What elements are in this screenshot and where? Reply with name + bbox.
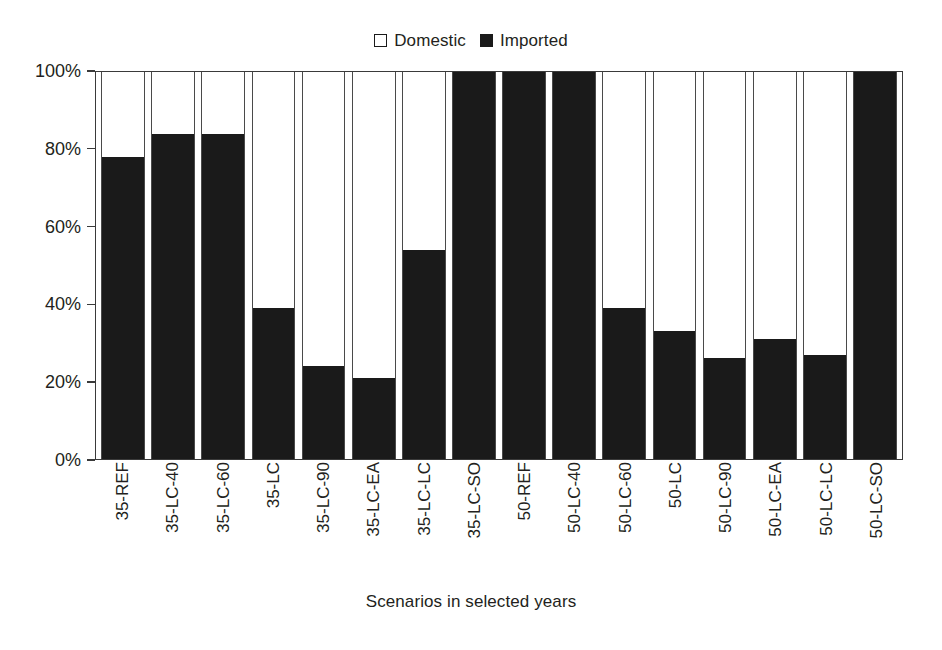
x-axis-label-cell: 50-LC-90: [703, 462, 747, 580]
bar-column: [252, 72, 296, 459]
x-axis-category-label: 35-LC-LC: [415, 462, 432, 536]
x-axis-title: Scenarios in selected years: [0, 592, 942, 612]
x-axis-category-label: 50-LC-EA: [767, 462, 784, 537]
y-axis-tick-mark: [87, 148, 95, 149]
y-axis-tick-mark: [87, 304, 95, 305]
bar-segment-imported: [353, 378, 395, 459]
y-axis-tick-label: 60%: [45, 218, 87, 236]
y-axis-tick: 60%: [45, 218, 95, 236]
bar-segment-domestic: [253, 72, 295, 308]
y-axis-tick: 40%: [45, 295, 95, 313]
legend-item-domestic: Domestic: [374, 32, 466, 49]
x-axis-label-cell: 35-LC: [251, 462, 295, 580]
x-axis-label-cell: 35-LC-90: [301, 462, 345, 580]
bar-segment-imported: [503, 72, 545, 459]
bar-segment-domestic: [102, 72, 144, 157]
bar-segment-imported: [804, 355, 846, 459]
bar-column: [402, 72, 446, 459]
x-axis-category-label: 35-REF: [114, 462, 131, 521]
x-axis-label-cell: 35-LC-60: [201, 462, 245, 580]
bar-column: [753, 72, 797, 459]
bar-segment-imported: [704, 358, 746, 459]
x-axis-label-cell: 50-LC-EA: [753, 462, 797, 580]
chart-legend: Domestic Imported: [0, 32, 942, 49]
bar-column: [452, 72, 496, 459]
bar-segment-domestic: [303, 72, 345, 366]
bar-segment-imported: [303, 366, 345, 459]
bar-column: [502, 72, 546, 459]
x-axis-label-cell: 50-LC-LC: [804, 462, 848, 580]
y-axis-tick-mark: [87, 226, 95, 227]
x-axis-label-cell: 35-LC-40: [150, 462, 194, 580]
y-axis-tick-mark: [87, 70, 95, 71]
y-axis-tick: 0%: [55, 451, 95, 469]
x-axis-category-label: 35-LC-60: [214, 462, 231, 533]
legend-item-imported: Imported: [480, 32, 568, 49]
y-axis: 0%20%40%60%80%100%: [0, 71, 95, 460]
x-axis-label-cell: 35-REF: [100, 462, 144, 580]
x-axis-label-cell: 35-LC-LC: [402, 462, 446, 580]
bar-segment-domestic: [403, 72, 445, 250]
x-axis-category-labels: 35-REF35-LC-4035-LC-6035-LC35-LC-9035-LC…: [95, 462, 903, 580]
bar-segment-imported: [654, 331, 696, 459]
bar-segment-domestic: [754, 72, 796, 339]
legend-swatch-domestic-icon: [374, 34, 387, 47]
bar-segment-domestic: [704, 72, 746, 358]
y-axis-tick-mark: [87, 459, 95, 460]
stacked-bar-chart: Domestic Imported 0%20%40%60%80%100% 35-…: [0, 0, 942, 650]
bar-segment-imported: [152, 134, 194, 459]
legend-label-domestic: Domestic: [394, 32, 466, 49]
y-axis-tick: 20%: [45, 373, 95, 391]
x-axis-label-cell: 50-LC-60: [603, 462, 647, 580]
bar-segment-imported: [553, 72, 595, 459]
bar-column: [552, 72, 596, 459]
x-axis-category-label: 35-LC: [264, 462, 281, 508]
y-axis-tick-label: 100%: [35, 62, 87, 80]
x-axis-category-label: 50-LC-60: [616, 462, 633, 533]
x-axis-category-label: 50-LC-SO: [867, 462, 884, 539]
bar-column: [352, 72, 396, 459]
x-axis-category-label: 50-REF: [516, 462, 533, 521]
bar-segment-domestic: [804, 72, 846, 355]
y-axis-tick-label: 20%: [45, 373, 87, 391]
bar-segment-domestic: [152, 72, 194, 134]
y-axis-tick-label: 80%: [45, 140, 87, 158]
bar-segment-imported: [403, 250, 445, 459]
y-axis-tick-label: 40%: [45, 295, 87, 313]
x-axis-label-cell: 35-LC-SO: [452, 462, 496, 580]
bar-column: [302, 72, 346, 459]
bar-segment-domestic: [202, 72, 244, 134]
bar-segment-domestic: [353, 72, 395, 378]
bar-column: [803, 72, 847, 459]
x-axis-category-label: 50-LC-LC: [817, 462, 834, 536]
bar-column: [101, 72, 145, 459]
bar-segment-imported: [102, 157, 144, 459]
bar-column: [602, 72, 646, 459]
legend-label-imported: Imported: [500, 32, 568, 49]
x-axis-category-label: 35-LC-90: [315, 462, 332, 533]
bar-segment-imported: [202, 134, 244, 459]
x-axis-label-cell: 50-LC-SO: [854, 462, 898, 580]
plot-area: [95, 71, 903, 460]
x-axis-category-label: 35-LC-SO: [465, 462, 482, 539]
bar-column: [653, 72, 697, 459]
x-axis-category-label: 35-LC-40: [164, 462, 181, 533]
x-axis-category-label: 50-LC-40: [566, 462, 583, 533]
y-axis-tick-mark: [87, 381, 95, 382]
bar-segment-imported: [603, 308, 645, 459]
bar-segment-imported: [754, 339, 796, 459]
bar-series-container: [96, 72, 902, 459]
x-axis-label-cell: 35-LC-EA: [351, 462, 395, 580]
bar-segment-imported: [453, 72, 495, 459]
bar-segment-domestic: [654, 72, 696, 331]
legend-swatch-imported-icon: [480, 34, 493, 47]
x-axis-label-cell: 50-LC-40: [552, 462, 596, 580]
x-axis-category-label: 35-LC-EA: [365, 462, 382, 537]
bar-column: [201, 72, 245, 459]
bar-column: [151, 72, 195, 459]
y-axis-tick: 80%: [45, 140, 95, 158]
bar-segment-imported: [253, 308, 295, 459]
y-axis-tick-label: 0%: [55, 451, 87, 469]
y-axis-tick: 100%: [35, 62, 95, 80]
x-axis-category-label: 50-LC: [666, 462, 683, 508]
